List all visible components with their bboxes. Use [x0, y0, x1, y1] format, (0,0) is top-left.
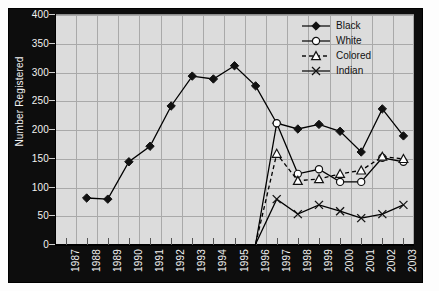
- data-point-indian-1998: [294, 210, 302, 218]
- y-tick-label-200: 200: [32, 124, 49, 135]
- x-tick-label-1994: 1994: [217, 249, 228, 272]
- x-tick-label-1989: 1989: [112, 249, 123, 272]
- data-point-indian-2000: [336, 207, 344, 215]
- x-tick-label-1991: 1991: [154, 249, 165, 272]
- legend-symbol-open-triangle-icon: [300, 49, 332, 63]
- legend-symbol-open-circle-icon: [300, 34, 332, 48]
- legend-marker-black: [312, 21, 320, 29]
- series-white: [256, 120, 407, 244]
- legend-item-white[interactable]: White: [300, 33, 396, 48]
- x-tick-label-1987: 1987: [70, 249, 81, 272]
- chart-figure: 050100150200250300350400 Number Register…: [0, 0, 439, 291]
- x-tick-label-1992: 1992: [175, 249, 186, 272]
- data-point-black-1999: [315, 120, 323, 128]
- legend-label-indian: Indian: [332, 65, 363, 76]
- x-tick-label-2000: 2000: [344, 249, 355, 272]
- legend-label-colored: Colored: [332, 50, 371, 61]
- data-point-black-1992: [167, 102, 175, 110]
- legend-symbol-cross-icon: [300, 64, 332, 78]
- x-tick-label-1993: 1993: [196, 249, 207, 272]
- data-point-black-1994: [209, 75, 217, 83]
- y-tick-label-150: 150: [32, 152, 49, 163]
- data-point-black-1998: [294, 125, 302, 133]
- data-point-white-1999: [315, 166, 322, 173]
- y-tick-label-350: 350: [32, 37, 49, 48]
- x-tick-label-2002: 2002: [386, 249, 397, 272]
- data-point-indian-1997: [273, 195, 281, 203]
- data-point-colored-1999: [315, 175, 324, 183]
- chart-legend: BlackWhiteColoredIndian: [300, 18, 396, 78]
- data-point-black-1988: [82, 194, 90, 202]
- legend-item-indian[interactable]: Indian: [300, 63, 396, 78]
- x-tick-label-1996: 1996: [260, 249, 271, 272]
- data-point-white-2000: [336, 178, 343, 185]
- y-axis-title: Number Registered: [14, 27, 25, 177]
- data-point-black-1993: [188, 72, 196, 80]
- data-point-indian-1999: [315, 201, 323, 209]
- data-point-black-1989: [104, 195, 112, 203]
- legend-symbol-filled-diamond-icon: [300, 19, 332, 33]
- data-point-indian-2003: [399, 201, 407, 209]
- x-tick-label-1999: 1999: [323, 249, 334, 272]
- y-axis-tick-labels: 050100150200250300350400: [0, 0, 49, 291]
- data-point-colored-1997: [272, 149, 281, 157]
- x-tick-label-2001: 2001: [365, 249, 376, 272]
- series-indian: [256, 195, 408, 244]
- data-point-white-2001: [358, 178, 365, 185]
- data-point-colored-2001: [357, 166, 366, 174]
- y-tick-label-100: 100: [32, 181, 49, 192]
- y-tick-label-50: 50: [37, 210, 49, 221]
- data-point-colored-2000: [336, 169, 345, 177]
- legend-label-white: White: [332, 35, 362, 46]
- x-tick-label-1990: 1990: [133, 249, 144, 272]
- x-tick-label-1995: 1995: [239, 249, 250, 272]
- x-tick-label-1998: 1998: [302, 249, 313, 272]
- y-tick-label-250: 250: [32, 95, 49, 106]
- legend-item-colored[interactable]: Colored: [300, 48, 396, 63]
- series-line-indian: [256, 199, 404, 244]
- series-line-black: [87, 66, 404, 199]
- legend-marker-white: [312, 37, 319, 44]
- x-tick-label-1988: 1988: [91, 249, 102, 272]
- y-tick-mark-0: [49, 244, 55, 245]
- y-tick-label-400: 400: [32, 9, 49, 20]
- legend-label-black: Black: [332, 20, 360, 31]
- x-tick-label-2003: 2003: [407, 249, 418, 272]
- data-point-white-1997: [273, 120, 280, 127]
- series-line-white: [256, 123, 404, 244]
- y-tick-label-300: 300: [32, 66, 49, 77]
- x-tick-label-1997: 1997: [281, 249, 292, 272]
- legend-item-black[interactable]: Black: [300, 18, 396, 33]
